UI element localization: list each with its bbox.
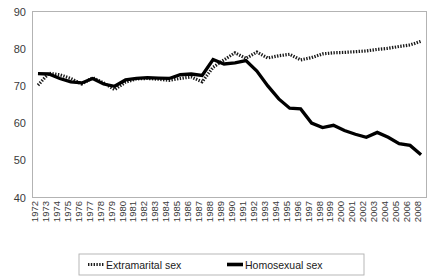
x-axis-tick-label: 1990 <box>226 201 237 222</box>
series-line-homosexual-sex <box>38 59 421 154</box>
x-axis-tick-label: 2000 <box>335 201 346 222</box>
x-axis-tick-label: 1978 <box>95 201 106 222</box>
x-axis-tick-label: 1994 <box>270 201 281 222</box>
series-group <box>38 41 421 154</box>
x-axis-tick-label: 2004 <box>379 201 390 222</box>
x-axis-tick-label: 2001 <box>346 201 357 222</box>
x-axis-tick-label: 1979 <box>106 201 117 222</box>
x-axis-tick-label: 1995 <box>281 201 292 222</box>
x-axis-tick-label: 2003 <box>368 201 379 222</box>
x-axis-tick-label: 1974 <box>51 201 62 222</box>
x-axis-tick-label: 1984 <box>160 201 171 222</box>
x-axis-tick-label: 1991 <box>237 201 248 222</box>
x-axis-tick-label: 2006 <box>401 201 412 222</box>
x-axis-tick-label: 1983 <box>149 201 160 222</box>
x-axis-tick-label: 1976 <box>73 201 84 222</box>
x-axis-tick-label: 1982 <box>138 201 149 222</box>
x-axis-tick-label: 1987 <box>193 201 204 222</box>
chart-container: 405060708090 197219731974197519761977197… <box>0 0 443 280</box>
legend-item-label: Extramarital sex <box>106 259 182 271</box>
x-axis-tick-label: 1993 <box>259 201 270 222</box>
legend: Extramarital sexHomosexual sex <box>79 254 364 275</box>
x-axis-tick-label: 1996 <box>292 201 303 222</box>
x-axis-tick-label: 1992 <box>248 201 259 222</box>
x-axis-tick-label: 1986 <box>182 201 193 222</box>
x-axis-tick-label: 2005 <box>390 201 401 222</box>
x-axis-tick-label: 1975 <box>62 201 73 222</box>
x-axis-tick-label: 1977 <box>84 201 95 222</box>
x-axis-tick-label: 1989 <box>215 201 226 222</box>
x-axis-tick-label: 1973 <box>40 201 51 222</box>
plot-area-border <box>33 12 427 198</box>
x-axis-tick-label: 1972 <box>29 201 40 222</box>
legend-item-label: Homosexual sex <box>245 259 323 271</box>
x-axis-tick-label: 2008 <box>412 201 423 222</box>
y-axis-tick-label: 90 <box>14 6 26 18</box>
x-axis-tick-labels: 1972197319741975197619771978197919801981… <box>29 201 423 222</box>
y-axis-tick-label: 80 <box>14 43 26 55</box>
x-axis-tick-label: 1997 <box>303 201 314 222</box>
x-axis-tick-label: 1998 <box>314 201 325 222</box>
line-chart: 405060708090 197219731974197519761977197… <box>0 0 443 280</box>
y-axis-tick-labels: 405060708090 <box>14 6 26 204</box>
x-axis-tick-label: 1980 <box>117 201 128 222</box>
y-axis-tick-label: 40 <box>14 192 26 204</box>
series-line-extramarital-sex <box>38 41 421 89</box>
x-axis-tick-label: 1999 <box>324 201 335 222</box>
y-axis-tick-label: 60 <box>14 117 26 129</box>
y-axis-tick-label: 70 <box>14 80 26 92</box>
x-axis-tick-label: 1981 <box>127 201 138 222</box>
x-axis-tick-label: 2002 <box>357 201 368 222</box>
x-axis-tick-label: 1985 <box>171 201 182 222</box>
x-axis-tick-label: 1988 <box>204 201 215 222</box>
y-axis-tick-label: 50 <box>14 154 26 166</box>
